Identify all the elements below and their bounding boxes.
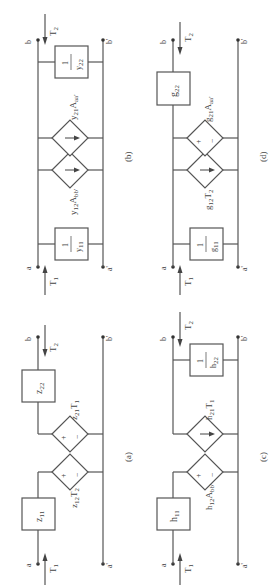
fraction-numerator: 1 <box>196 243 205 247</box>
caption-b: (b) <box>123 152 133 163</box>
figure-canvas: T1 a a' z11 + − z12T2 (a) + − z21T1 z22 … <box>0 0 279 585</box>
terminal-a-prime-label: a' <box>240 562 249 568</box>
plus-sign: + <box>194 139 203 144</box>
terminal-b-label: b <box>159 40 168 44</box>
terminal-b-node <box>171 335 175 339</box>
terminal-b-label: b <box>24 40 33 44</box>
terminal-a-prime-label: a' <box>240 265 249 271</box>
terminal-b-label: b <box>159 337 168 341</box>
fraction-numerator: 1 <box>61 243 70 247</box>
plus-sign: + <box>194 473 203 478</box>
terminal-a-prime-label: a' <box>105 265 114 271</box>
terminal-b-prime-label: b' <box>105 38 114 44</box>
terminal-b-prime-label: b' <box>240 335 249 341</box>
terminal-b-node <box>36 38 40 42</box>
caption-a: (a) <box>123 452 133 462</box>
minus-sign: − <box>208 472 217 477</box>
terminal-a-label: a <box>159 563 168 567</box>
caption-c: (c) <box>258 452 268 462</box>
terminal-b-node <box>36 335 40 339</box>
terminal-a-label: a <box>24 266 33 270</box>
terminal-a-label: a <box>24 563 33 567</box>
terminal-a-prime-label: a' <box>105 562 114 568</box>
terminal-a-label: a <box>159 266 168 270</box>
terminal-b-prime-label: b' <box>240 38 249 44</box>
caption-d: (d) <box>258 152 268 163</box>
terminal-b-prime-label: b' <box>105 335 114 341</box>
minus-sign: − <box>208 138 217 143</box>
plus-sign: + <box>59 435 68 440</box>
terminal-b-node <box>171 38 175 42</box>
fraction-numerator: 1 <box>196 359 205 363</box>
fraction-numerator: 1 <box>61 61 70 65</box>
minus-sign: − <box>73 434 82 439</box>
plus-sign: + <box>59 473 68 478</box>
minus-sign: − <box>73 472 82 477</box>
terminal-b-label: b <box>24 337 33 341</box>
